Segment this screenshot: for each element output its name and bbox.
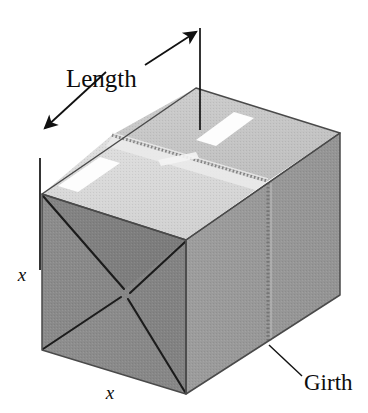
box-diagram-figure: Length x x Girth (0, 0, 368, 413)
label-height-x: x (17, 264, 27, 285)
length-arrow-right (145, 32, 196, 65)
label-girth: Girth (304, 370, 353, 395)
label-length: Length (66, 65, 137, 92)
diagram-canvas: Length x x Girth (0, 0, 368, 413)
girth-leader-line (269, 345, 302, 376)
box-solid (42, 88, 340, 394)
label-width-x: x (105, 382, 115, 403)
